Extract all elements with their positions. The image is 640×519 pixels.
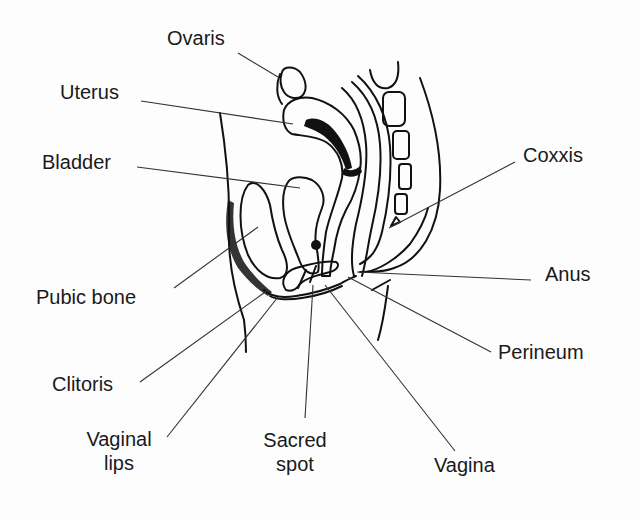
vertebra-3 bbox=[399, 164, 411, 189]
leader-line-ovaris bbox=[238, 53, 278, 77]
pelvic-anatomy-diagram: Ovaris Uterus Bladder Coxxis Pubic bone … bbox=[0, 0, 640, 519]
label-sacred-spot-line1: Sacred bbox=[262, 428, 328, 452]
leader-line-perineum bbox=[348, 277, 491, 352]
vertebra-4 bbox=[395, 194, 407, 214]
label-clitoris: Clitoris bbox=[52, 372, 113, 396]
label-vaginal-lips-line2: lips bbox=[77, 451, 161, 475]
rectum-wall-1 bbox=[342, 88, 366, 276]
leader-line-pubic-bone bbox=[174, 227, 258, 288]
leader-line-sacred-spot bbox=[305, 285, 313, 418]
leader-line-clitoris bbox=[140, 290, 268, 382]
label-bladder: Bladder bbox=[42, 150, 111, 174]
back-outline bbox=[360, 78, 440, 272]
leader-line-bladder bbox=[137, 167, 300, 188]
label-vagina: Vagina bbox=[434, 453, 495, 477]
label-sacred-spot: Sacred spot bbox=[262, 428, 328, 476]
rectum-wall-3 bbox=[358, 76, 391, 264]
leader-line-uterus bbox=[141, 101, 293, 124]
label-vaginal-lips: Vaginal lips bbox=[77, 427, 161, 475]
vertebra-2 bbox=[393, 131, 409, 159]
leader-line-vagina bbox=[325, 285, 455, 451]
label-coxxis: Coxxis bbox=[523, 143, 583, 167]
pubic-bone-shape bbox=[241, 183, 288, 278]
label-ovaris: Ovaris bbox=[167, 26, 225, 50]
leader-line-anus bbox=[357, 272, 531, 280]
label-vaginal-lips-line1: Vaginal bbox=[77, 427, 161, 451]
ovary-shape bbox=[281, 68, 306, 99]
label-sacred-spot-line2: spot bbox=[262, 452, 328, 476]
label-anus: Anus bbox=[545, 262, 591, 286]
label-perineum: Perineum bbox=[498, 340, 584, 364]
label-pubic-bone: Pubic bone bbox=[36, 285, 136, 309]
bladder-shape bbox=[283, 177, 323, 273]
leader-line-vaginal-lips bbox=[167, 297, 278, 437]
leader-line-coxxis bbox=[389, 162, 515, 228]
label-uterus: Uterus bbox=[60, 80, 119, 104]
sacred-spot-dot bbox=[311, 240, 321, 250]
sacrum-top bbox=[370, 62, 398, 88]
